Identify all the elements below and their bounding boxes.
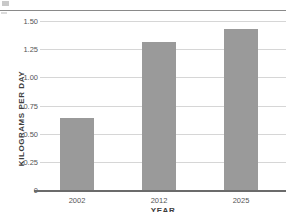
y-tick-label: 0 <box>0 186 38 195</box>
bar-chart: KILOGRAMS PER DAY 1.501.251.000.750.500.… <box>0 14 286 212</box>
x-tick-label: 2002 <box>69 196 86 205</box>
x-axis-title: YEAR <box>40 206 286 212</box>
y-tick-label: 1.25 <box>0 45 38 54</box>
bar-series <box>40 14 286 190</box>
x-axis-line <box>34 190 286 192</box>
plot-area: 1.501.251.000.750.500.250 200220122025 <box>40 14 286 190</box>
y-tick-label: 0.50 <box>0 129 38 138</box>
x-tick-label: 2025 <box>233 196 250 205</box>
header-divider <box>0 10 286 11</box>
y-tick-label: 1.50 <box>0 17 38 26</box>
bar <box>60 118 94 190</box>
bar <box>224 29 258 190</box>
y-tick-label: 0.75 <box>0 101 38 110</box>
bar <box>142 42 176 190</box>
y-tick-label: 0.25 <box>0 157 38 166</box>
y-axis-title: KILOGRAMS PER DAY <box>17 44 26 194</box>
y-tick-label: 1.00 <box>0 73 38 82</box>
cropped-header-fragment-icon <box>2 1 9 6</box>
x-tick-label: 2012 <box>151 196 168 205</box>
